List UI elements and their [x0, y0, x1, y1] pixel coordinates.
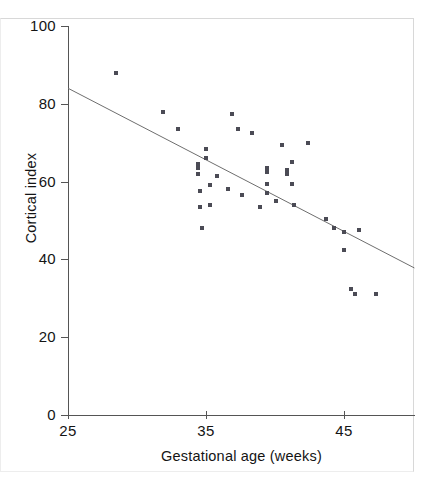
page-frame-border: [0, 18, 414, 472]
y-tick-label-wrap: 100: [0, 26, 56, 27]
scatter-plot-figure: 020406080100 253545 Cortical index Gesta…: [0, 0, 430, 490]
data-point: [208, 203, 212, 207]
x-axis-line: [68, 415, 415, 416]
y-tick-label: 80: [8, 96, 56, 111]
y-tick-mark: [61, 104, 69, 105]
data-point: [200, 226, 204, 230]
data-point: [342, 248, 346, 252]
data-point: [176, 127, 180, 131]
data-point: [215, 174, 219, 178]
x-axis-title: Gestational age (weeks): [68, 448, 415, 464]
data-point: [285, 172, 289, 176]
data-point: [198, 189, 202, 193]
data-point: [265, 170, 269, 174]
y-tick-label: 20: [8, 329, 56, 344]
x-tick-label: 25: [38, 422, 98, 439]
data-point: [353, 292, 357, 296]
data-point: [250, 131, 254, 135]
data-point: [226, 187, 230, 191]
y-tick-label: 0: [8, 407, 56, 422]
data-point: [349, 287, 353, 291]
data-point: [196, 172, 200, 176]
data-point: [265, 182, 269, 186]
y-axis-title: Cortical index: [23, 128, 39, 268]
y-tick-label-wrap: 20: [0, 337, 56, 338]
y-tick-mark: [61, 337, 69, 338]
data-point: [196, 166, 200, 170]
data-point: [374, 292, 378, 296]
data-point: [198, 205, 202, 209]
y-tick-label-wrap: 0: [0, 415, 56, 416]
data-point: [204, 156, 208, 160]
data-point: [290, 182, 294, 186]
data-point: [306, 141, 310, 145]
data-point: [161, 110, 165, 114]
data-point: [114, 71, 118, 75]
data-point: [236, 127, 240, 131]
x-tick-label: 45: [314, 422, 374, 439]
data-point: [332, 226, 336, 230]
data-point: [258, 205, 262, 209]
data-point: [274, 199, 278, 203]
data-point: [240, 193, 244, 197]
data-point: [230, 112, 234, 116]
data-point: [280, 143, 284, 147]
x-tick-label: 35: [176, 422, 236, 439]
data-point: [324, 217, 328, 221]
data-point: [265, 191, 269, 195]
data-point: [208, 183, 212, 187]
data-point: [204, 147, 208, 151]
x-tick-mark: [206, 411, 207, 419]
data-point: [290, 160, 294, 164]
y-tick-label-wrap: 80: [0, 104, 56, 105]
regression-line: [68, 88, 414, 268]
y-tick-mark: [61, 26, 69, 27]
y-axis-line: [68, 26, 69, 416]
y-tick-mark: [61, 182, 69, 183]
data-point: [357, 228, 361, 232]
x-tick-mark: [68, 411, 69, 419]
y-tick-mark: [61, 259, 69, 260]
regression-line-layer: [0, 0, 430, 490]
y-tick-label: 100: [8, 18, 56, 33]
data-point: [292, 203, 296, 207]
x-tick-mark: [344, 411, 345, 419]
data-point: [342, 230, 346, 234]
